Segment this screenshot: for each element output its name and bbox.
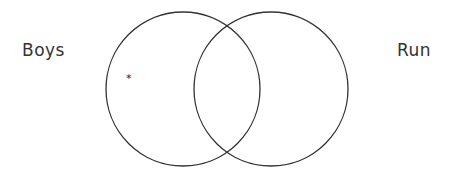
venn-diagram	[0, 0, 452, 178]
star-marker: *	[126, 72, 132, 85]
circle-boys	[106, 12, 260, 166]
circle-run	[194, 12, 348, 166]
